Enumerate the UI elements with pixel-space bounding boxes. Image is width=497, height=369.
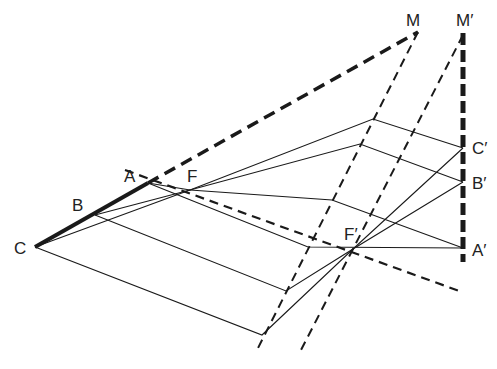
label-c-prime: C′ (472, 140, 487, 157)
label-b: B (72, 197, 83, 214)
label-c: C (14, 240, 26, 257)
label-f: F (187, 168, 197, 185)
object-line-ca (35, 183, 148, 247)
dashed-line-a-m (148, 32, 418, 183)
axis-dashed-line (125, 170, 462, 292)
ray-a (148, 183, 463, 248)
label-b-prime: B′ (472, 175, 487, 192)
ray-c (35, 119, 463, 247)
ray-a-lower (148, 183, 463, 248)
dashed-line-m (257, 32, 418, 350)
ray-b-lower (95, 148, 463, 291)
label-f-prime: F′ (344, 226, 358, 243)
diagram-canvas: M M′ A B C F F′ C′ B′ A′ (0, 0, 497, 369)
dashed-line-m-prime (300, 35, 463, 352)
diagram-svg (0, 0, 497, 369)
label-a: A (124, 168, 135, 185)
label-a-prime: A′ (472, 242, 487, 259)
label-m: M (406, 12, 420, 29)
label-m-prime: M′ (456, 12, 473, 29)
ray-c-lower (35, 182, 463, 335)
